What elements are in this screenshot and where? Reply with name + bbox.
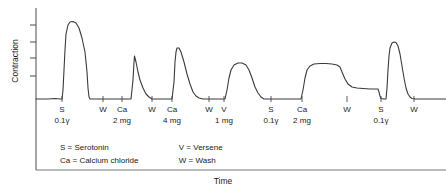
legend-equals: = [189, 156, 194, 165]
event-symbol: Ca [282, 104, 322, 115]
legend-term: Wash [195, 156, 215, 165]
legend-item: V = Versene [179, 142, 223, 155]
event-dose: 1 mg [204, 115, 244, 126]
event-label: Ca4 mg [152, 104, 192, 126]
event-dose: 2 mg [102, 115, 142, 126]
legend-item: S = Serotonin [60, 142, 139, 155]
event-symbol: Ca [152, 104, 192, 115]
legend-equals: = [68, 143, 73, 152]
figure-container: Contraction Time S0.1γWCa2 mgWCa4 mgWV1 … [0, 0, 446, 191]
legend-term: Calcium chloride [79, 156, 138, 165]
event-symbol: S [42, 104, 82, 115]
event-symbol: V [204, 104, 244, 115]
legend-symbol: S [60, 143, 65, 152]
event-label: W [394, 104, 434, 115]
legend-term: Versene [193, 143, 222, 152]
event-label: S0.1γ [42, 104, 82, 126]
event-dose: 2 mg [282, 115, 322, 126]
event-symbol: W [394, 104, 434, 115]
legend-symbol: W [179, 156, 187, 165]
legend-column-left: S = Serotonin Ca = Calcium chloride [60, 142, 139, 167]
legend-symbol: V [179, 143, 184, 152]
legend-equals: = [72, 156, 77, 165]
legend-symbol: Ca [60, 156, 70, 165]
legend-equals: = [186, 143, 191, 152]
event-dose: 0.1γ [42, 115, 82, 126]
event-label: Ca2 mg [282, 104, 322, 126]
event-dose: 0.1γ [361, 115, 401, 126]
event-dose: 4 mg [152, 115, 192, 126]
legend-column-right: V = Versene W = Wash [179, 142, 223, 167]
legend-term: Serotonin [74, 143, 108, 152]
legend-item: W = Wash [179, 155, 223, 168]
legend-item: Ca = Calcium chloride [60, 155, 139, 168]
event-label: V1 mg [204, 104, 244, 126]
legend: S = Serotonin Ca = Calcium chloride V = … [60, 142, 223, 167]
